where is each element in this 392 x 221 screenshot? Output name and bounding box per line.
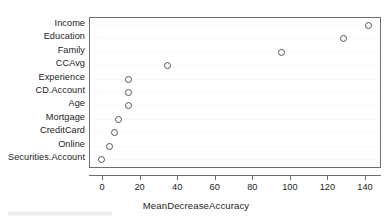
- plot-guide-row: [91, 105, 379, 107]
- data-point: [111, 129, 118, 136]
- plot-area: [89, 17, 381, 168]
- variable-importance-plot: Income Education Family CCAvg Experience…: [0, 0, 392, 221]
- data-point: [106, 143, 113, 150]
- plot-guide-row: [91, 38, 379, 40]
- plot-inner: [90, 18, 380, 167]
- data-point: [125, 102, 132, 109]
- y-axis-label-online: Online: [58, 140, 85, 149]
- plot-guide-row: [91, 52, 379, 54]
- x-axis-tick-label: 140: [357, 182, 372, 192]
- y-axis-label-age: Age: [69, 99, 86, 108]
- scan-artifact-band: [8, 211, 112, 216]
- x-axis-tick: [290, 175, 291, 180]
- x-axis-tick: [252, 175, 253, 180]
- x-axis-tick: [365, 175, 366, 180]
- data-point: [125, 76, 132, 83]
- y-axis-label-education: Education: [44, 32, 85, 41]
- y-axis-label-experience: Experience: [39, 73, 85, 82]
- x-axis-title: MeanDecreaseAccuracy: [0, 200, 392, 211]
- x-axis-line: [89, 175, 381, 176]
- plot-guide-row: [91, 132, 379, 134]
- data-point: [98, 156, 105, 163]
- plot-guide-row: [91, 146, 379, 148]
- x-axis-tick: [215, 175, 216, 180]
- data-point: [125, 89, 132, 96]
- plot-guide-row: [91, 119, 379, 121]
- y-axis-label-cd-account: CD.Account: [35, 86, 85, 95]
- x-axis-tick-label: 100: [282, 182, 297, 192]
- plot-guide-row: [91, 25, 379, 27]
- x-axis-tick-label: 0: [99, 182, 104, 192]
- plot-guide-row: [91, 65, 379, 67]
- x-axis-tick: [102, 175, 103, 180]
- data-point: [278, 49, 285, 56]
- data-point: [115, 116, 122, 123]
- x-axis-tick-label: 20: [134, 182, 144, 192]
- data-point: [365, 22, 372, 29]
- x-axis-tick: [327, 175, 328, 180]
- plot-guide-row: [91, 79, 379, 81]
- x-axis-tick: [177, 175, 178, 180]
- y-axis-label-securities-account: Securities.Account: [8, 153, 85, 162]
- y-axis-label-family: Family: [58, 46, 85, 55]
- data-point: [340, 35, 347, 42]
- y-axis-label-creditcard: CreditCard: [40, 126, 85, 135]
- y-axis-label-ccavg: CCAvg: [56, 59, 85, 68]
- x-axis-tick-label: 40: [172, 182, 182, 192]
- y-axis-label-income: Income: [55, 19, 85, 28]
- data-point: [164, 62, 171, 69]
- plot-guide-row: [91, 159, 379, 161]
- x-axis-tick-label: 60: [210, 182, 220, 192]
- plot-guide-row: [91, 92, 379, 94]
- x-axis-tick-label: 120: [320, 182, 335, 192]
- x-axis-tick-label: 80: [247, 182, 257, 192]
- x-axis-tick: [140, 175, 141, 180]
- y-axis-label-mortgage: Mortgage: [46, 113, 85, 122]
- y-axis-labels: Income Education Family CCAvg Experience…: [0, 0, 87, 221]
